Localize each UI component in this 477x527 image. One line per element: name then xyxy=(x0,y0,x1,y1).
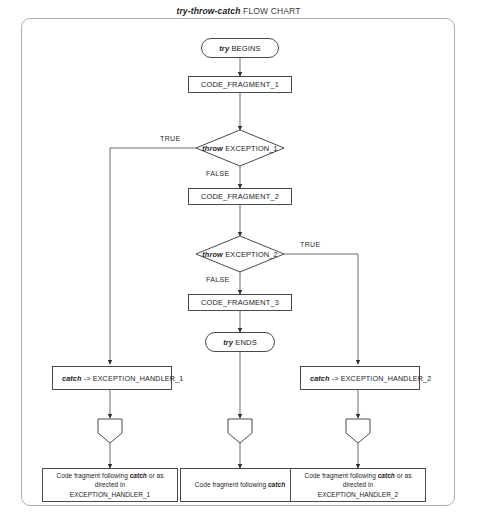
end-left-post: or as xyxy=(147,472,164,479)
end-box-left-line3: EXCEPTION_HANDLER_1 xyxy=(70,490,150,499)
decision-2-label: throw EXCEPTION_2 xyxy=(180,247,300,261)
process-code-fragment-2: CODE_FRAGMENT_2 xyxy=(188,188,292,205)
try-begins-rest: BEGINS xyxy=(229,44,261,53)
decision-1-keyword: throw xyxy=(202,144,223,153)
end-box-center: Code fragment following catch xyxy=(180,468,300,502)
merge-center-shape xyxy=(228,419,252,443)
end-box-right: Code fragment following catch or as dire… xyxy=(290,468,426,502)
end-box-left: Code fragment following catch or as dire… xyxy=(42,468,178,502)
end-center-pre: Code fragment following xyxy=(195,481,268,488)
edge-label-d1-false: FALSE xyxy=(206,170,230,177)
code-fragment-2-label: CODE_FRAGMENT_2 xyxy=(201,192,279,201)
code-fragment-3-label: CODE_FRAGMENT_3 xyxy=(201,298,279,307)
end-box-left-line1: Code fragment following catch or as xyxy=(57,471,164,480)
handler-exception-handler-1: catch -> EXCEPTION_HANDLER_1 xyxy=(52,366,172,390)
edge-d2true-to-handler2 xyxy=(284,254,358,364)
flowchart-page: try-throw-catch FLOW CHART xyxy=(0,0,477,527)
end-box-right-line1: Code fragment following catch or as xyxy=(305,471,412,480)
end-left-keyword: catch xyxy=(130,472,147,479)
edge-label-d1-true: TRUE xyxy=(160,135,180,142)
terminator-try-ends: try ENDS xyxy=(205,332,275,352)
decision-1-label: throw EXCEPTION_1 xyxy=(180,141,300,155)
end-box-center-line1: Code fragment following catch xyxy=(195,480,285,489)
merge-left-shape xyxy=(98,419,122,443)
end-right-keyword: catch xyxy=(378,472,395,479)
decision-2-keyword: throw xyxy=(202,250,223,259)
end-box-left-line2: directed in xyxy=(95,480,126,489)
process-code-fragment-1: CODE_FRAGMENT_1 xyxy=(188,76,292,93)
merge-right-shape xyxy=(346,419,370,443)
edge-label-d2-true: TRUE xyxy=(300,241,320,248)
process-code-fragment-3: CODE_FRAGMENT_3 xyxy=(188,294,292,311)
code-fragment-1-label: CODE_FRAGMENT_1 xyxy=(201,80,279,89)
decision-2-rest: EXCEPTION_2 xyxy=(223,250,278,259)
terminator-try-begins: try BEGINS xyxy=(201,38,279,58)
end-box-right-line2: directed in xyxy=(343,480,374,489)
handler-2-keyword: catch xyxy=(310,374,330,383)
handler-2-rest: -> EXCEPTION_HANDLER_2 xyxy=(330,374,432,383)
end-right-post: or as xyxy=(395,472,412,479)
end-box-right-line3: EXCEPTION_HANDLER_2 xyxy=(318,490,398,499)
try-begins-keyword: try xyxy=(219,44,229,53)
handler-1-rest: -> EXCEPTION_HANDLER_1 xyxy=(82,374,184,383)
decision-1-rest: EXCEPTION_1 xyxy=(223,144,278,153)
edge-label-d2-false: FALSE xyxy=(206,276,230,283)
end-center-keyword: catch xyxy=(268,481,285,488)
try-ends-rest: ENDS xyxy=(233,338,257,347)
end-left-pre: Code fragment following xyxy=(57,472,130,479)
handler-exception-handler-2: catch -> EXCEPTION_HANDLER_2 xyxy=(300,366,420,390)
try-ends-keyword: try xyxy=(223,338,233,347)
handler-1-keyword: catch xyxy=(62,374,82,383)
end-right-pre: Code fragment following xyxy=(305,472,378,479)
